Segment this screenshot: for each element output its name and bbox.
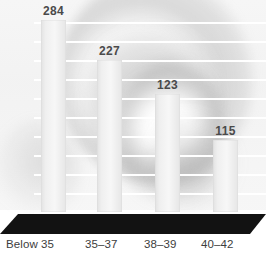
bar-value-label: 123: [157, 78, 178, 92]
floor-shape: [0, 210, 266, 234]
x-axis-category-label: Below 35: [6, 238, 54, 250]
bar-value-label: 115: [215, 124, 235, 138]
bar[interactable]: [155, 94, 180, 212]
bar-value-label: 227: [99, 44, 120, 58]
gridline: [34, 79, 266, 81]
bar-value-label: 284: [43, 4, 64, 18]
x-axis-category-label: 35–37: [85, 238, 117, 250]
bar[interactable]: [213, 140, 238, 212]
bar[interactable]: [97, 60, 122, 212]
gridline: [34, 60, 266, 62]
gridline: [34, 22, 266, 24]
plot-area: 05101520253035404550 284227123115: [34, 14, 266, 212]
chart-floor: [0, 210, 266, 234]
x-axis-category-label: 40–42: [201, 238, 233, 250]
gridline: [34, 98, 266, 100]
bar[interactable]: [41, 20, 66, 212]
gridline: [34, 117, 266, 119]
bar-chart: 05101520253035404550 284227123115 Below …: [0, 0, 266, 253]
gridline: [34, 41, 266, 43]
x-axis-category-label: 38–39: [144, 238, 176, 250]
